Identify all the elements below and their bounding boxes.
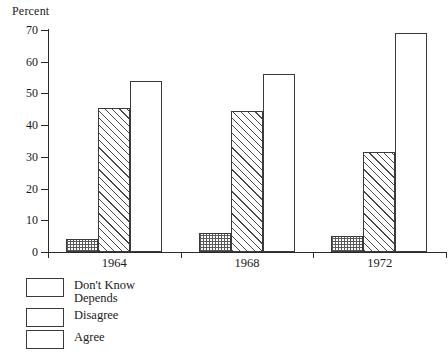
bar xyxy=(98,108,130,252)
legend-label: Don't Know Depends xyxy=(74,278,135,305)
x-axis-line xyxy=(48,252,446,253)
legend-label: Disagree xyxy=(74,308,118,322)
legend-item: Don't Know Depends xyxy=(26,278,326,305)
legend-label: Agree xyxy=(74,330,105,344)
bar xyxy=(130,81,162,252)
bar xyxy=(263,74,295,252)
y-axis-tick-label: 20 xyxy=(6,183,38,195)
legend-label-line1: Disagree xyxy=(74,308,118,322)
bar xyxy=(199,233,231,252)
y-axis-tick-label: 40 xyxy=(6,119,38,131)
y-axis-tick-label: 70 xyxy=(6,24,38,36)
y-axis-tick-label: 0 xyxy=(6,246,38,258)
x-axis-tick xyxy=(48,252,49,258)
bar xyxy=(231,111,263,252)
bar-chart: Percent 010203040506070 196419681972 Don… xyxy=(0,0,448,357)
bar xyxy=(66,239,98,252)
plot-area xyxy=(48,30,446,252)
legend-label-line1: Don't Know xyxy=(74,278,135,292)
legend-item: Disagree xyxy=(26,308,326,327)
legend-label-line2: Depends xyxy=(74,292,135,305)
x-axis-group-label: 1968 xyxy=(181,256,314,271)
white-swatch xyxy=(26,330,64,349)
legend: Don't Know Depends Disagree Agree xyxy=(26,278,326,352)
stipple-swatch xyxy=(26,278,64,297)
x-axis-group-label: 1964 xyxy=(48,256,181,271)
x-axis-group-label: 1972 xyxy=(313,256,446,271)
bar xyxy=(363,152,395,252)
bar xyxy=(395,33,427,252)
hatch-swatch xyxy=(26,308,64,327)
x-axis-tick xyxy=(446,252,447,258)
y-axis-tick-label: 30 xyxy=(6,151,38,163)
y-axis-tick-label: 60 xyxy=(6,56,38,68)
y-axis-tick-label: 10 xyxy=(6,214,38,226)
y-axis-tick-label: 50 xyxy=(6,87,38,99)
bar xyxy=(331,236,363,252)
legend-label-line1: Agree xyxy=(74,330,105,344)
y-axis-title: Percent xyxy=(12,4,49,19)
legend-item: Agree xyxy=(26,330,326,349)
